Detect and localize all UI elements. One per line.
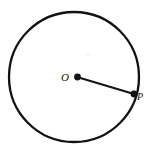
center-point-dot-o xyxy=(74,74,81,81)
point-label-p: P xyxy=(136,91,143,102)
circle-diagram: O P xyxy=(0,0,155,154)
circle-diagram-canvas: O P xyxy=(0,0,155,154)
point-label-o: O xyxy=(61,71,69,83)
paper-speck-icon xyxy=(87,54,89,56)
